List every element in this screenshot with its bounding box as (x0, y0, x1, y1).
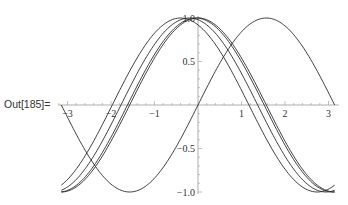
x-tick-label: −2 (106, 108, 117, 119)
x-tick-label: −1 (149, 108, 160, 119)
y-tick-label: −1.0 (177, 187, 195, 198)
x-tick-label: 3 (326, 108, 331, 119)
y-tick-label: 1.0 (183, 13, 196, 24)
x-tick-label: 2 (283, 108, 288, 119)
y-tick-label: 0.5 (183, 56, 196, 67)
plot: −3−2−11231.00.5−0.5−1.0 (0, 0, 348, 205)
x-tick-label: −3 (62, 108, 73, 119)
x-tick-label: 1 (239, 108, 244, 119)
y-tick-label: −0.5 (177, 143, 195, 154)
